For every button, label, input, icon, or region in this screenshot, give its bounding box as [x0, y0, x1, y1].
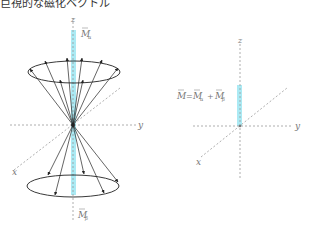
svg-text:β: β — [221, 96, 225, 103]
svg-text:α: α — [88, 34, 92, 40]
right-x-axis — [201, 88, 287, 157]
x-axis — [14, 88, 120, 170]
net-highlight — [237, 85, 242, 126]
origin-point — [71, 123, 75, 127]
right-z-label: z — [237, 36, 243, 45]
svg-text:β: β — [84, 215, 88, 222]
svg-text:=: = — [186, 92, 193, 101]
m-alpha-label: M α — [80, 28, 92, 40]
equation-label: M = M α + M β — [176, 90, 225, 103]
svg-text:+: + — [207, 92, 214, 101]
magnetization-diagram: z y x M α M β z y x M = M α + — [0, 0, 311, 233]
right-origin — [239, 125, 241, 127]
right-y-label: y — [294, 121, 301, 131]
left-z-label: z — [70, 15, 76, 24]
left-x-label: x — [12, 167, 17, 177]
left-precession-diagram: z y x M α M β — [10, 15, 144, 222]
left-y-label: y — [137, 120, 144, 130]
right-x-label: x — [196, 157, 201, 167]
svg-text:α: α — [200, 96, 204, 102]
right-net-magnetization-diagram: z y x M = M α + M β — [176, 36, 301, 180]
m-beta-label: M β — [77, 209, 88, 222]
